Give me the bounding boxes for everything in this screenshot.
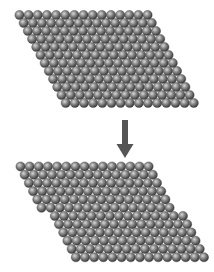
atom (145, 236, 154, 245)
atom (168, 228, 177, 237)
atom (186, 244, 195, 253)
atom (94, 74, 103, 83)
atom (99, 66, 108, 75)
atom (135, 82, 144, 91)
atom (71, 162, 80, 171)
atom (154, 66, 163, 75)
atom (68, 228, 77, 237)
atom (153, 98, 162, 107)
atom (116, 10, 125, 19)
atom (127, 236, 136, 245)
atom (112, 90, 121, 99)
atom (151, 42, 160, 51)
atom (40, 58, 49, 67)
atom (98, 82, 107, 91)
atom (95, 228, 104, 237)
atom (147, 18, 156, 27)
atom (24, 178, 33, 187)
atom (133, 26, 142, 35)
atom (87, 211, 96, 220)
atom (156, 203, 165, 212)
atom (62, 82, 71, 91)
atom (121, 90, 130, 99)
atom (60, 26, 69, 35)
atom (98, 98, 107, 107)
atom (101, 18, 110, 27)
atom (46, 203, 55, 212)
atom (149, 244, 158, 253)
atom (78, 211, 87, 220)
atom (58, 74, 67, 83)
atom (163, 82, 172, 91)
atom (101, 203, 110, 212)
atom (88, 178, 97, 187)
atom (126, 253, 135, 262)
atom (95, 244, 104, 253)
atom (54, 220, 63, 229)
atom (32, 42, 41, 51)
atom (155, 50, 164, 59)
atom (59, 228, 68, 237)
atom (15, 10, 24, 19)
atom (149, 74, 158, 83)
atom (53, 82, 62, 91)
atom (177, 74, 186, 83)
atom (110, 34, 119, 43)
atom (125, 98, 134, 107)
atom (189, 98, 198, 107)
atom (111, 187, 120, 196)
atom (77, 58, 86, 67)
atom (99, 253, 108, 262)
atom (86, 58, 95, 67)
atom (122, 74, 131, 83)
atom (64, 203, 73, 212)
atom (77, 42, 86, 51)
atom (142, 42, 151, 51)
atom (146, 34, 155, 43)
atom (94, 90, 103, 99)
atom (115, 26, 124, 35)
atom (105, 42, 114, 51)
atom (90, 236, 99, 245)
atom (132, 42, 141, 51)
atom (118, 66, 127, 75)
atom (143, 10, 152, 19)
atom (132, 228, 141, 237)
atom (19, 18, 28, 27)
atom (23, 26, 32, 35)
atom (100, 50, 109, 59)
arrow-head (117, 144, 134, 158)
atom (153, 82, 162, 91)
atom (49, 74, 58, 83)
atom (70, 98, 79, 107)
atom (78, 26, 87, 35)
atom (105, 211, 114, 220)
atom (159, 58, 168, 67)
atom (79, 178, 88, 187)
atom (108, 253, 117, 262)
atom (86, 228, 95, 237)
atom (59, 42, 68, 51)
atom (124, 26, 133, 35)
atom (116, 178, 125, 187)
atom (89, 82, 98, 91)
atom (138, 187, 147, 196)
atom (160, 42, 169, 51)
atom (110, 203, 119, 212)
atom (148, 170, 157, 179)
atom (27, 34, 36, 43)
atom (99, 236, 108, 245)
atom (119, 203, 128, 212)
atom (33, 178, 42, 187)
atom (75, 170, 84, 179)
atom (93, 187, 102, 196)
atom (50, 42, 59, 51)
atom (154, 253, 163, 262)
atom (152, 195, 161, 204)
atom (79, 10, 88, 19)
down-arrow-icon (117, 120, 134, 158)
lattice-after-slip (16, 162, 209, 262)
atom (135, 253, 144, 262)
atom (93, 170, 102, 179)
atom (38, 187, 47, 196)
